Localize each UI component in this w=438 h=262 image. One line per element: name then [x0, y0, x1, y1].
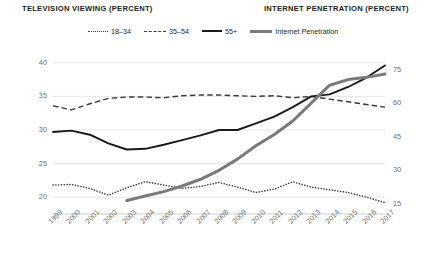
series-line-18-34	[53, 182, 385, 203]
y-axis-tick-left: 30	[27, 126, 47, 133]
series-line-35-54	[53, 95, 385, 110]
y-axis-tick-left: 25	[27, 160, 47, 167]
y-axis-tick-right: 15	[393, 200, 413, 207]
y-axis-tick-left: 20	[27, 193, 47, 200]
series-line-internet-penetration	[127, 74, 385, 201]
y-axis-tick-right: 45	[393, 133, 413, 140]
series-line-55-	[53, 65, 385, 149]
y-axis-tick-left: 35	[27, 92, 47, 99]
y-axis-tick-right: 30	[393, 166, 413, 173]
chart-figure: TELEVISION VIEWING (PERCENT) INTERNET PE…	[0, 0, 438, 262]
y-axis-tick-right: 60	[393, 99, 413, 106]
y-axis-tick-right: 75	[393, 66, 413, 73]
y-axis-tick-left: 40	[27, 59, 47, 66]
